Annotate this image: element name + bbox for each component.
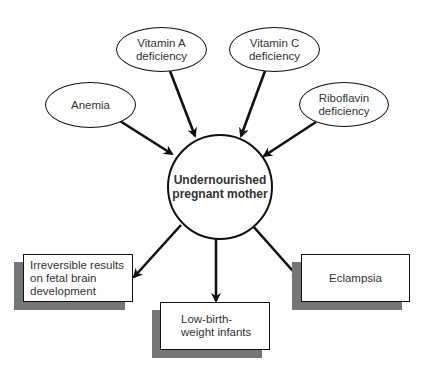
- arrow-anemia-to-center: [120, 121, 172, 154]
- node-vitamin-a-deficiency: Vitamin A deficiency: [116, 27, 207, 72]
- node-irreversible-brain-results: Irreversible results on fetal brain deve…: [23, 254, 133, 302]
- node-label: Vitamin A deficiency: [136, 37, 187, 63]
- node-label: Eclampsia: [329, 272, 382, 285]
- node-eclampsia: Eclampsia: [301, 254, 410, 302]
- node-label: Low-birth- weight infants: [181, 313, 251, 339]
- node-anemia: Anemia: [45, 82, 136, 128]
- arrow-riboflavin-to-center: [264, 122, 316, 156]
- center-label: Undernourished pregnant mother: [172, 173, 267, 201]
- node-label: Irreversible results on fetal brain deve…: [30, 259, 124, 298]
- node-low-birth-weight-infants: Low-birth- weight infants: [160, 302, 270, 350]
- node-label: Anemia: [71, 99, 110, 112]
- arrow-vitamin-a-to-center: [170, 71, 195, 136]
- node-label: Vitamin C deficiency: [249, 37, 300, 63]
- node-riboflavin-deficiency: Riboflavin deficiency: [299, 82, 389, 127]
- diagram-canvas: Vitamin A deficiency Vitamin C deficienc…: [0, 0, 425, 373]
- arrow-vitamin-c-to-center: [241, 71, 265, 136]
- node-undernourished-pregnant-mother: Undernourished pregnant mother: [167, 134, 273, 240]
- arrow-center-to-brain: [134, 225, 181, 277]
- node-label: Riboflavin deficiency: [318, 92, 369, 118]
- node-vitamin-c-deficiency: Vitamin C deficiency: [229, 27, 320, 72]
